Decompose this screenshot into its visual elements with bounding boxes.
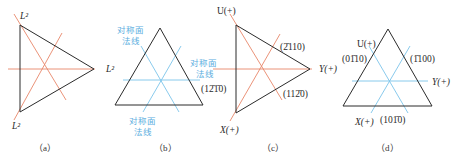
- blue-axis-line: [141, 46, 179, 112]
- label-normal-right-1: 对称面: [190, 58, 217, 68]
- label-plane-1120: (112̄0): [283, 89, 308, 100]
- crystal-symmetry-diagram: L² L² L² （a） 对称面 法线 对称面 法线 对称面 法线 （b） U(…: [0, 0, 452, 165]
- label-plane-2110: (2̄110): [280, 42, 305, 53]
- red-axis-line: [230, 14, 282, 100]
- blue-axis-line: [369, 46, 408, 113]
- label-top: L²: [19, 11, 28, 21]
- caption-b: （b）: [154, 143, 177, 153]
- label-y-axis: Y(+): [432, 77, 450, 88]
- label-normal-bottom-2: 法线: [134, 127, 152, 137]
- triangle: [20, 25, 94, 112]
- label-normal-right-2: 法线: [196, 69, 214, 79]
- label-u-axis: U(+): [217, 6, 236, 17]
- label-right: L²: [105, 64, 114, 74]
- caption-c: （c）: [262, 143, 284, 153]
- panel-d: U(+) Y(+) X(+) (01̄10) (1̄100) (101̄0) （…: [342, 29, 450, 153]
- label-x-axis: X(+): [219, 125, 239, 136]
- label-plane-1010: (101̄0): [380, 115, 405, 126]
- label-normal-bottom-1: 对称面: [129, 116, 156, 126]
- label-plane-1210: (12̄1̄0): [201, 84, 226, 95]
- label-normal-top-1: 对称面: [117, 25, 144, 35]
- caption-d: （d）: [376, 143, 399, 153]
- label-plane-0110: (01̄10): [342, 54, 367, 65]
- label-x-axis: X(+): [354, 117, 374, 128]
- label-bottom: L²: [11, 121, 20, 131]
- label-plane-1100: (1̄100): [410, 54, 435, 65]
- red-axis-line: [14, 14, 66, 100]
- label-u-axis: U(+): [357, 39, 376, 50]
- caption-a: （a）: [34, 143, 56, 153]
- panel-a: L² L² L² （a）: [8, 11, 114, 153]
- label-y-axis: Y(+): [319, 64, 337, 75]
- panel-c: U(+) Y(+) X(+) (2̄110) (112̄0) (12̄1̄0) …: [201, 6, 337, 153]
- label-normal-top-2: 法线: [122, 36, 140, 46]
- blue-axis-line: [371, 46, 410, 113]
